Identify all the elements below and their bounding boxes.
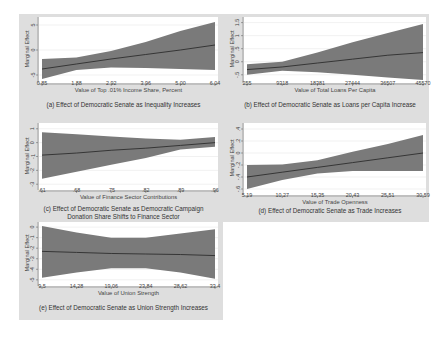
x-tick-label: 33.4 (210, 283, 221, 289)
y-tick-label: -3 (30, 256, 36, 261)
y-tick-label: -5 (30, 277, 36, 282)
x-tick-label: 9.5 (38, 283, 46, 289)
chart-caption: (e) Effect of Democratic Senate as Union… (22, 304, 225, 312)
y-tick-label: -4 (30, 267, 36, 272)
x-tick-label: 14.28 (70, 283, 84, 289)
y-tick-label: -1 (30, 235, 36, 240)
x-tick-label: 19.06 (104, 283, 118, 289)
chart-svg-e: -5-4-3-2-109.514.2819.0623.8428.6233.4 (0, 0, 445, 337)
x-tick-label: 23.84 (139, 283, 153, 289)
y-axis-label: Marginal Effect (24, 223, 30, 283)
y-tick-label: -2 (30, 246, 36, 251)
y-tick-label: 0 (30, 226, 36, 229)
x-axis-label: Value of Union Strength (42, 290, 215, 296)
x-tick-label: 28.62 (174, 283, 188, 289)
